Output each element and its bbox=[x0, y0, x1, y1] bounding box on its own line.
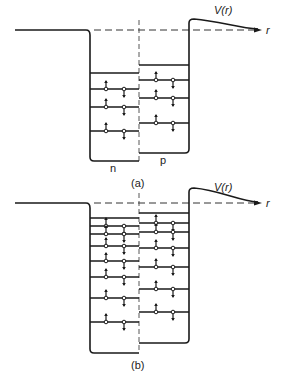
arrowhead-down-icon bbox=[122, 304, 126, 307]
arrowhead-down-icon bbox=[122, 113, 126, 116]
arrowhead-down-icon bbox=[122, 283, 126, 286]
caption-b: (b) bbox=[131, 359, 144, 371]
nucleon-spin-down bbox=[122, 232, 126, 236]
arrowhead-down-icon bbox=[171, 273, 175, 276]
n-well-label: n bbox=[110, 162, 116, 174]
nucleon-spin-up bbox=[154, 78, 158, 82]
arrowhead-up-icon bbox=[104, 268, 108, 271]
arrowhead-up-icon bbox=[104, 252, 108, 255]
nucleon-spin-down bbox=[122, 129, 126, 133]
nucleon-spin-down bbox=[122, 275, 126, 279]
nucleon-spin-down bbox=[122, 105, 126, 109]
caption-a: (a) bbox=[131, 177, 144, 189]
nuclear-shell-model-diagram: V(r) r n p (a) V(r) r (b) bbox=[0, 0, 293, 379]
nucleon-spin-down bbox=[122, 259, 126, 263]
arrowhead-up-icon bbox=[154, 89, 158, 92]
nucleon-spin-up bbox=[104, 232, 108, 236]
arrowhead-up-icon bbox=[104, 122, 108, 125]
arrowhead-down-icon bbox=[171, 318, 175, 321]
arrowhead-up-icon bbox=[154, 303, 158, 306]
nucleon-spin-up bbox=[104, 320, 108, 324]
nucleon-spin-up bbox=[154, 310, 158, 314]
v-r-label-a: V(r) bbox=[214, 4, 233, 16]
nucleon-spin-down bbox=[171, 246, 175, 250]
nucleon-spin-up bbox=[104, 87, 108, 91]
nucleon-spin-down bbox=[171, 221, 175, 225]
nucleon-spin-up bbox=[104, 105, 108, 109]
arrowhead-up-icon bbox=[154, 258, 158, 261]
nucleon-spin-down bbox=[122, 296, 126, 300]
nucleon-spin-up bbox=[154, 265, 158, 269]
nucleon-spin-up bbox=[104, 244, 108, 248]
arrowhead-up-icon bbox=[104, 237, 108, 240]
arrowhead-down-icon bbox=[171, 129, 175, 132]
arrowhead-down-icon bbox=[122, 267, 126, 270]
nucleon-spin-down bbox=[122, 87, 126, 91]
nucleon-spin-up bbox=[154, 246, 158, 250]
nucleon-spin-up bbox=[104, 296, 108, 300]
arrowhead-down-icon bbox=[122, 328, 126, 331]
arrowhead-up-icon bbox=[154, 239, 158, 242]
nucleon-spin-up bbox=[104, 259, 108, 263]
r-axis-label-a: r bbox=[266, 24, 271, 36]
nucleon-spin-down bbox=[171, 230, 175, 234]
arrowhead-up-icon bbox=[104, 98, 108, 101]
nucleon-spin-up bbox=[154, 96, 158, 100]
nucleon-spin-up bbox=[104, 275, 108, 279]
nucleon-spin-down bbox=[171, 310, 175, 314]
arrowhead-down-icon bbox=[171, 86, 175, 89]
panel-b bbox=[15, 188, 262, 353]
arrowhead-down-icon bbox=[122, 240, 126, 243]
arrowhead-down-icon bbox=[171, 104, 175, 107]
nucleon-spin-up bbox=[154, 230, 158, 234]
nucleon-spin-down bbox=[122, 320, 126, 324]
nucleon-spin-down bbox=[171, 96, 175, 100]
arrowhead-up-icon bbox=[154, 214, 158, 217]
arrowhead-down-icon bbox=[122, 95, 126, 98]
arrowhead-down-icon bbox=[171, 254, 175, 257]
p-well-label: p bbox=[160, 154, 166, 166]
r-axis-label-b: r bbox=[266, 197, 271, 209]
arrowhead-up-icon bbox=[104, 313, 108, 316]
arrowhead-down-icon bbox=[171, 295, 175, 298]
neutron-well-outline bbox=[15, 30, 139, 161]
nucleon-spin-down bbox=[171, 121, 175, 125]
arrowhead-up-icon bbox=[154, 71, 158, 74]
nucleon-spin-up bbox=[154, 287, 158, 291]
arrowhead-up-icon bbox=[104, 80, 108, 83]
arrowhead-up-icon bbox=[154, 280, 158, 283]
nucleon-spin-up bbox=[154, 121, 158, 125]
nucleon-spin-down bbox=[122, 224, 126, 228]
nucleon-spin-down bbox=[171, 265, 175, 269]
v-r-label-b: V(r) bbox=[214, 181, 233, 193]
proton-well-outline bbox=[139, 19, 258, 153]
arrowhead-down-icon bbox=[122, 252, 126, 255]
nucleon-spin-down bbox=[171, 287, 175, 291]
nucleon-spin-down bbox=[171, 78, 175, 82]
nucleon-spin-down bbox=[122, 244, 126, 248]
panel-a bbox=[15, 19, 262, 161]
arrowhead-up-icon bbox=[104, 289, 108, 292]
arrowhead-down-icon bbox=[171, 238, 175, 241]
arrowhead-up-icon bbox=[154, 114, 158, 117]
nucleon-spin-up bbox=[104, 129, 108, 133]
arrowhead-down-icon bbox=[122, 137, 126, 140]
